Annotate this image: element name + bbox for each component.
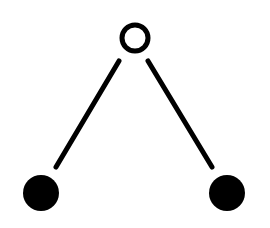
edge-root-right xyxy=(148,61,212,167)
right-leaf-node-filled-circle xyxy=(209,175,245,211)
tree-diagram xyxy=(0,0,270,228)
edge-root-left xyxy=(56,61,119,167)
root-node-hollow-circle xyxy=(122,25,148,51)
left-leaf-node-filled-circle xyxy=(23,175,59,211)
diagram-svg xyxy=(0,0,270,228)
